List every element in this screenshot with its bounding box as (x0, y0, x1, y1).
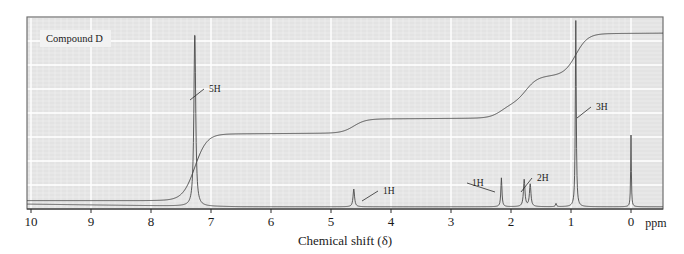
x-tick-label: 6 (268, 214, 275, 229)
x-tick-label: 8 (148, 214, 155, 229)
nmr-spectrum-figure: 109876543210 5H1H1H2H3H ppm Compound D C… (0, 0, 684, 254)
x-tick-label: 0 (628, 214, 635, 229)
x-tick-label: 2 (508, 214, 515, 229)
x-axis-tick-labels: 109876543210 (25, 214, 635, 229)
integration-annotation: 5H (209, 84, 221, 94)
x-tick-label: 9 (88, 214, 95, 229)
integration-annotation: 3H (596, 102, 608, 112)
x-tick-label: 5 (328, 214, 335, 229)
x-tick-label: 7 (208, 214, 215, 229)
integration-annotation: 2H (537, 173, 549, 183)
x-axis-title: Chemical shift (δ) (298, 233, 392, 248)
ppm-unit-label: ppm (645, 216, 667, 230)
integration-annotation: 1H (472, 178, 484, 188)
compound-label-text: Compound D (46, 33, 103, 44)
x-tick-label: 4 (388, 214, 395, 229)
x-tick-label: 10 (25, 214, 38, 229)
x-tick-label: 1 (568, 214, 575, 229)
x-tick-label: 3 (448, 214, 455, 229)
integration-annotation: 1H (383, 186, 395, 196)
spectrum-canvas: 109876543210 5H1H1H2H3H ppm Compound D C… (0, 0, 684, 254)
